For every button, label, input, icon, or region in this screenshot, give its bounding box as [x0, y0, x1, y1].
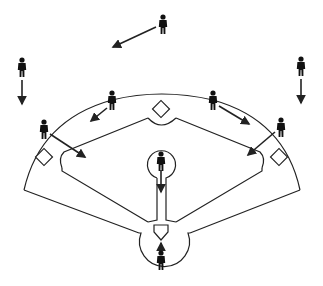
center-fielder-icon [159, 14, 167, 34]
infield-left-cut [60, 118, 148, 168]
second-base [153, 101, 170, 118]
first-baseman-icon [277, 117, 285, 137]
second-baseman-icon [209, 90, 217, 110]
left-fielder-icon [18, 57, 26, 77]
shortstop-arrow [91, 108, 107, 121]
third-baseman-icon [40, 119, 48, 139]
left-foul-edge [24, 190, 139, 233]
pitcher-icon [157, 151, 165, 171]
first-base-line [176, 168, 262, 222]
home-plate [154, 225, 168, 240]
baseball-field-diagram [0, 0, 323, 286]
second-base-cutout [148, 118, 176, 125]
right-fielder-icon [297, 56, 305, 76]
second-baseman-arrow [219, 106, 249, 124]
third-base-line [62, 168, 148, 222]
right-foul-edge [190, 190, 300, 233]
infield-right-cut [176, 118, 264, 168]
first-baseman-arrow [248, 132, 275, 155]
shortstop-icon [108, 90, 116, 110]
third-base [36, 149, 53, 166]
center-fielder-arrow [113, 27, 156, 47]
